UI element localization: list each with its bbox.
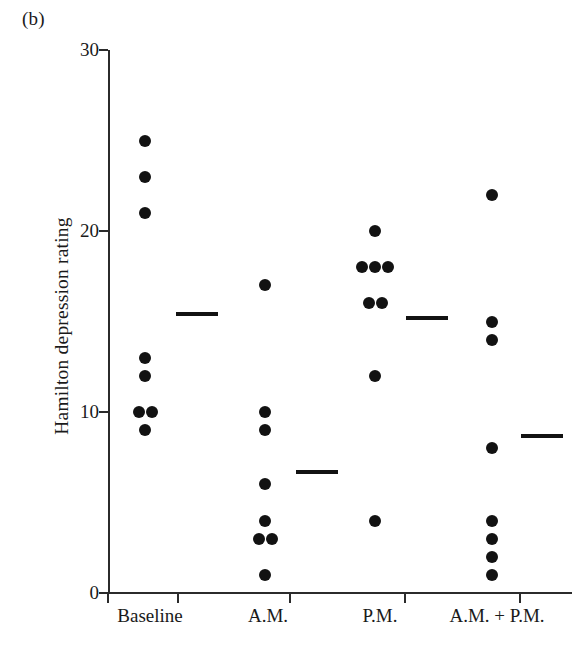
data-point — [139, 171, 151, 183]
data-point — [146, 406, 158, 418]
data-point — [369, 370, 381, 382]
x-tick-1 — [177, 593, 179, 603]
data-point — [259, 279, 271, 291]
data-point — [486, 316, 498, 328]
data-point — [259, 406, 271, 418]
data-point — [259, 424, 271, 436]
y-tick-label-wrap: 0 — [50, 583, 99, 602]
median-bar — [176, 312, 218, 316]
data-point — [376, 297, 388, 309]
data-point — [139, 207, 151, 219]
dot-plot-figure: (b) Hamilton depression rating 0102030 B… — [0, 0, 580, 648]
median-bar — [521, 434, 563, 438]
data-point — [369, 515, 381, 527]
data-point — [363, 297, 375, 309]
median-bar — [296, 470, 338, 474]
x-tick-4 — [519, 593, 521, 603]
panel-label: (b) — [22, 8, 45, 30]
data-point — [486, 551, 498, 563]
data-point — [486, 515, 498, 527]
y-tick-label-0: 0 — [59, 583, 99, 602]
x-tick-2 — [289, 593, 291, 603]
data-point — [266, 533, 278, 545]
data-point — [486, 533, 498, 545]
y-tick-label-10: 10 — [59, 402, 99, 421]
x-tick-3 — [404, 593, 406, 603]
data-point — [259, 515, 271, 527]
data-point — [259, 478, 271, 490]
data-point — [486, 442, 498, 454]
y-tick-label-wrap: 10 — [50, 402, 99, 421]
x-tick-0 — [107, 593, 109, 603]
data-point — [486, 334, 498, 346]
y-tick-label-20: 20 — [59, 221, 99, 240]
y-axis-title: Hamilton depression rating — [51, 146, 73, 506]
data-point — [133, 406, 145, 418]
y-tick-label-wrap: 30 — [50, 40, 99, 59]
y-axis-line — [108, 50, 110, 594]
data-point — [253, 533, 265, 545]
median-bar — [406, 316, 448, 320]
x-tick-label-a-m-p-m: A.M. + P.M. — [407, 604, 580, 628]
data-point — [486, 189, 498, 201]
data-point — [382, 261, 394, 273]
data-point — [139, 370, 151, 382]
data-point — [259, 569, 271, 581]
y-tick-label-30: 30 — [59, 40, 99, 59]
y-tick-label-wrap: 20 — [50, 221, 99, 240]
y-tick-10 — [99, 411, 108, 413]
y-tick-20 — [99, 230, 108, 232]
data-point — [139, 424, 151, 436]
data-point — [139, 135, 151, 147]
data-point — [486, 569, 498, 581]
data-point — [139, 352, 151, 364]
data-point — [356, 261, 368, 273]
y-tick-30 — [99, 49, 108, 51]
data-point — [369, 261, 381, 273]
data-point — [369, 225, 381, 237]
